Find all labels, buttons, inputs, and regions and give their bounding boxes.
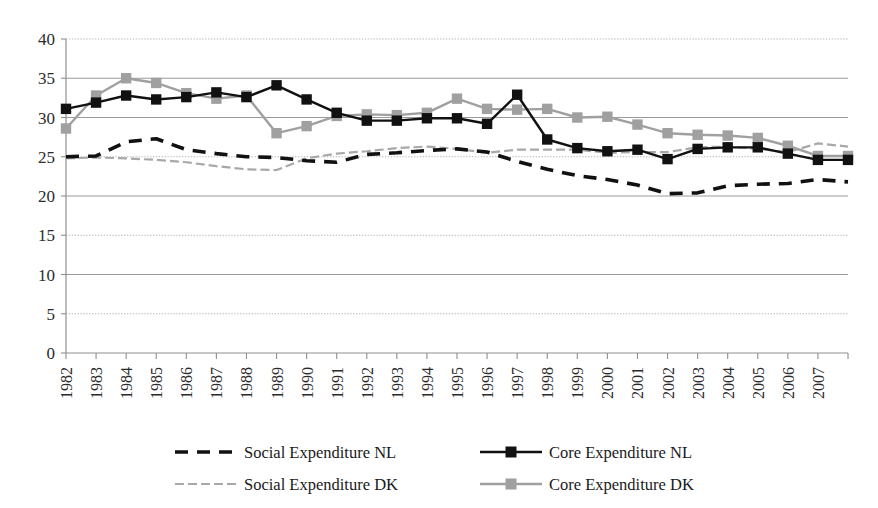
x-tick-label-2000: 2000 [599,367,616,399]
marker-core_dk-1995 [452,93,462,103]
marker-core_nl-1994 [422,113,432,123]
legend-marker-core_nl [506,447,517,458]
x-tick-label-1987: 1987 [208,367,225,399]
x-tick-label-1998: 1998 [539,367,556,399]
y-tick-label-25: 25 [38,148,55,167]
legend-label-core_nl: Core Expenditure NL [549,443,692,462]
y-tick-label-30: 30 [38,109,55,128]
x-tick-label-1991: 1991 [329,367,346,399]
x-tick-label-1992: 1992 [359,367,376,399]
x-tick-label-1995: 1995 [449,367,466,399]
marker-core_nl-1987 [211,87,221,97]
x-tick-label-1994: 1994 [419,367,436,399]
marker-core_dk-1997 [512,104,522,114]
marker-core_nl-1995 [452,113,462,123]
x-tick-label-1988: 1988 [238,367,255,399]
x-tick-label-1986: 1986 [178,367,195,399]
marker-core_nl-1985 [151,94,161,104]
expenditure-line-chart: 0510152025303540 19821983198419851986198… [0,0,878,508]
x-tick-label-2001: 2001 [629,367,646,399]
marker-core_nl-2006 [783,148,793,158]
marker-core_nl-1999 [572,143,582,153]
marker-core_dk-1990 [301,121,311,131]
marker-core_dk-2002 [662,128,672,138]
marker-core_nl-1984 [121,90,131,100]
marker-core_nl-1998 [542,134,552,144]
marker-core_nl-1986 [181,92,191,102]
marker-core_dk-2003 [692,130,702,140]
marker-core_dk-1996 [482,104,492,114]
marker-core_nl-2005 [753,142,763,152]
y-tick-label-20: 20 [38,187,55,206]
x-tick-label-1985: 1985 [148,367,165,399]
marker-core_nl-1982 [61,104,71,114]
marker-core_dk-1998 [542,104,552,114]
legend-label-social_nl: Social Expenditure NL [244,443,396,462]
marker-core_nl-2002 [662,154,672,164]
y-tick-label-10: 10 [38,266,55,285]
legend-marker-core_dk [506,479,517,490]
y-tick-label-40: 40 [38,30,55,49]
marker-core_dk-1999 [572,112,582,122]
marker-core_nl-1996 [482,119,492,129]
marker-core_nl-1990 [301,94,311,104]
x-tick-label-1984: 1984 [118,367,135,399]
marker-core_nl-2008 [843,155,853,165]
y-tick-label-15: 15 [38,226,55,245]
x-tick-label-1996: 1996 [479,367,496,399]
marker-core_nl-2003 [692,144,702,154]
x-tick-label-1982: 1982 [58,367,75,399]
marker-core_dk-2005 [753,133,763,143]
x-tick-label-1997: 1997 [509,367,526,399]
chart-background [0,0,878,508]
marker-core_dk-2004 [722,130,732,140]
marker-core_dk-1984 [121,73,131,83]
x-tick-label-2002: 2002 [660,367,677,399]
x-tick-label-1990: 1990 [299,367,316,399]
marker-core_dk-1985 [151,78,161,88]
marker-core_nl-1992 [362,115,372,125]
x-tick-label-2004: 2004 [720,367,737,399]
y-tick-label-35: 35 [38,69,55,88]
marker-core_dk-1989 [271,128,281,138]
marker-core_dk-2000 [602,112,612,122]
marker-core_nl-1988 [241,92,251,102]
y-tick-label-0: 0 [47,344,56,363]
x-tick-label-2005: 2005 [750,367,767,399]
marker-core_nl-2001 [632,144,642,154]
marker-core_nl-2007 [813,155,823,165]
marker-core_nl-1991 [331,108,341,118]
marker-core_dk-1982 [61,123,71,133]
x-tick-label-2007: 2007 [810,367,827,399]
marker-core_dk-2001 [632,119,642,129]
marker-core_nl-1997 [512,90,522,100]
marker-core_nl-1983 [91,97,101,107]
legend-label-social_dk: Social Expenditure DK [244,475,398,494]
x-tick-label-2006: 2006 [780,367,797,399]
marker-core_nl-2004 [722,142,732,152]
marker-core_nl-1993 [392,115,402,125]
x-tick-label-1983: 1983 [88,367,105,399]
x-tick-label-1989: 1989 [269,367,286,399]
y-tick-label-5: 5 [47,305,56,324]
x-tick-label-1993: 1993 [389,367,406,399]
x-tick-label-1999: 1999 [569,367,586,399]
legend-label-core_dk: Core Expenditure DK [549,475,694,494]
x-tick-label-2003: 2003 [690,367,707,399]
marker-core_nl-1989 [271,80,281,90]
marker-core_nl-2000 [602,146,612,156]
